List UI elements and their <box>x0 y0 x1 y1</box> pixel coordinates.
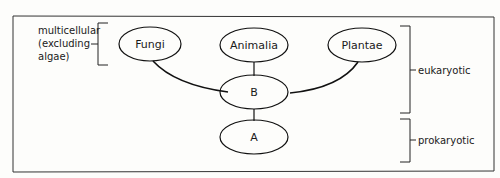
eukaryotic-label: eukaryotic <box>418 65 471 76</box>
node-fungi: Fungi <box>119 27 181 61</box>
multicellular-label: multicellular <box>38 25 101 36</box>
node-plantae: Plantae <box>328 28 396 62</box>
node-label: Fungi <box>135 38 165 51</box>
node-b: B <box>220 75 288 109</box>
edge-fungi-b <box>153 61 228 92</box>
edge-plantae-b <box>290 62 358 93</box>
prokaryotic-label: prokaryotic <box>418 135 474 146</box>
node-a: A <box>220 120 288 154</box>
multicellular-label: (excluding <box>38 38 90 49</box>
node-label: B <box>250 86 258 99</box>
eukaryotic-bracket: eukaryotic <box>400 26 471 113</box>
node-label: Plantae <box>341 39 382 52</box>
node-label: Animalia <box>230 39 278 52</box>
multicellular-label: algae) <box>38 51 70 62</box>
classification-diagram: Fungi Animalia Plantae B A multicellular… <box>0 0 500 178</box>
multicellular-bracket: multicellular (excluding algae) <box>38 23 108 65</box>
node-label: A <box>250 131 258 144</box>
prokaryotic-bracket: prokaryotic <box>400 119 474 162</box>
node-animalia: Animalia <box>220 28 288 62</box>
